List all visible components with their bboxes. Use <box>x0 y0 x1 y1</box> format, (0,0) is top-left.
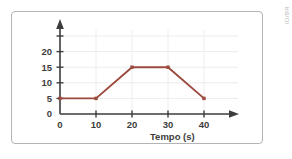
vertical-gridlines <box>96 30 204 114</box>
y-tick-label: 15 <box>41 62 52 73</box>
y-axis-tick-labels: 0 5 10 15 20 <box>41 46 52 119</box>
y-tick-label: 20 <box>41 46 52 57</box>
x-axis <box>60 110 239 118</box>
y-tick-label: 0 <box>47 108 52 119</box>
figure-container: 0 5 10 15 20 0 10 20 30 40 Velocidade (m… <box>0 0 292 159</box>
x-axis-title: Tempo (s) <box>150 131 195 142</box>
y-tick-label: 5 <box>47 93 53 104</box>
image-credit: ID/BR <box>284 6 290 24</box>
x-tick-label: 30 <box>163 119 174 130</box>
x-axis-tick-labels: 0 10 20 30 40 <box>57 119 209 130</box>
velocity-time-line-chart: 0 5 10 15 20 0 10 20 30 40 <box>0 0 292 159</box>
x-tick-label: 0 <box>57 119 62 130</box>
x-tick-label: 20 <box>127 119 138 130</box>
y-tick-label: 10 <box>41 77 52 88</box>
x-tick-label: 10 <box>91 119 102 130</box>
x-tick-label: 40 <box>199 119 210 130</box>
